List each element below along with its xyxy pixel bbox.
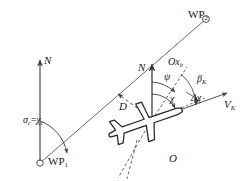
chi-label: χ bbox=[170, 94, 174, 104]
figure-canvas: WP2 WP1 N N σc=χc ψ χ Δχ βK Oxb D VK O bbox=[0, 0, 243, 181]
north-label-left: N bbox=[44, 55, 51, 66]
north-label-center: N bbox=[138, 62, 145, 73]
aircraft-silhouette bbox=[102, 90, 188, 153]
distance-label: D bbox=[119, 101, 127, 112]
waypoint-1-label: WP1 bbox=[48, 156, 68, 169]
beta-k-label: βK bbox=[197, 74, 206, 85]
angle-arc-sigma-c bbox=[40, 121, 67, 153]
body-axis-label: Oxb bbox=[168, 57, 183, 68]
delta-chi-label: Δχ bbox=[191, 93, 201, 103]
sigma-c-equals-chi-c-label: σc=χc bbox=[23, 115, 43, 126]
velocity-label: VK bbox=[224, 99, 235, 112]
angle-arc-psi bbox=[152, 82, 175, 92]
diagram-svg bbox=[0, 0, 243, 181]
psi-label: ψ bbox=[164, 72, 170, 82]
waypoint-2-label: WP2 bbox=[188, 9, 208, 22]
origin-label: O bbox=[169, 153, 177, 164]
